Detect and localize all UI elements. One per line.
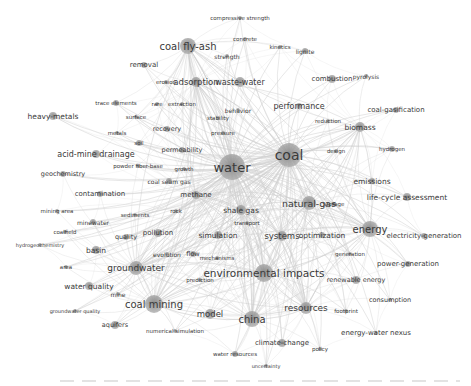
node-label-storage: storage: [324, 201, 346, 208]
node-label-lignite: lignite: [296, 48, 315, 56]
network-edge: [359, 76, 366, 127]
node-label-powder-fiber-base: powder fiber-base: [113, 163, 163, 170]
node-label-shale-gas: shale gas: [223, 206, 259, 215]
node-label-rock: rock: [170, 208, 183, 214]
node-label-systems: systems: [264, 231, 300, 241]
node-label-coalfield: coalfield: [53, 229, 76, 235]
node-label-recovery: recovery: [153, 125, 182, 133]
node-label-coal-gasification: coal-gasification: [367, 106, 424, 114]
node-label-prediction: prediction: [186, 277, 214, 284]
network-edge: [266, 308, 306, 366]
node-label-mechanisms: mechanisms: [200, 255, 235, 261]
node-label-energy: energy: [353, 224, 388, 235]
node-label-combustion: combustion: [312, 75, 353, 83]
node-label-contamination: contamination: [75, 190, 126, 198]
node-label-mining-area: mining area: [41, 208, 74, 215]
network-edge: [327, 79, 332, 121]
node-label-footprint: footprint: [334, 308, 359, 315]
node-label-aquifers: aquifers: [102, 321, 129, 329]
node-label-rare-earth: rare: [151, 101, 163, 107]
node-label-evolution: evolution: [153, 251, 181, 258]
network-edge: [359, 76, 366, 127]
node-label-model: model: [197, 309, 223, 319]
node-label-hydrogeochemistry: hydrogeochemistry: [16, 242, 64, 249]
network-edge: [136, 82, 196, 117]
node-label-growth: growth: [174, 166, 194, 173]
node-label-water: water: [213, 160, 251, 175]
node-label-electricity-generation: electricity-generation: [386, 232, 461, 240]
node-label-biomass: biomass: [344, 123, 375, 132]
node-label-heavy-metals: heavy-metals: [28, 112, 79, 121]
node-label-extraction: extraction: [168, 101, 196, 107]
network-edge: [116, 103, 118, 133]
node-label-design: design: [327, 148, 346, 155]
network-edge: [289, 79, 332, 155]
node-label-pressure: pressure: [211, 130, 235, 137]
node-label-coal-mining: coal mining: [125, 299, 183, 310]
node-label-water-resources: water resources: [213, 351, 257, 357]
node-label-transport: transport: [234, 220, 260, 227]
node-label-waste-water: waste-water: [215, 78, 265, 87]
node-label-policy: policy: [312, 346, 329, 353]
node-label-erosion: erosion: [156, 79, 177, 85]
node-label-climate-change: climate-change: [255, 339, 309, 347]
node-label-sediments: sediments: [121, 212, 150, 218]
node-label-environmental-impacts: environmental impacts: [203, 267, 324, 279]
node-label-simulation: simulation: [198, 231, 237, 240]
node-label-surface: surface: [126, 114, 147, 120]
node-label-hydrogen: hydrogen: [379, 146, 406, 153]
node-label-resources: resources: [284, 303, 328, 313]
node-label-permeability: permeability: [162, 146, 203, 154]
node-label-coal-fly-ash: coal fly-ash: [159, 41, 216, 52]
node-label-geochemistry: geochemistry: [41, 170, 86, 178]
node-label-compressive-strength: compressive strength: [210, 15, 270, 22]
network-edge: [305, 51, 360, 127]
node-label-mine: mine: [110, 291, 125, 298]
node-label-concrete: concrete: [233, 36, 258, 42]
network-edge: [360, 127, 407, 197]
caption-strip: [60, 380, 460, 382]
node-label-kinetics: kinetics: [269, 44, 290, 50]
node-label-numerical-simulation: numerical simulation: [146, 328, 204, 334]
node-label-emissions: emissions: [353, 177, 390, 186]
node-label-pyrolysis: pyrolysis: [353, 73, 380, 81]
node-label-mobility: metals: [108, 130, 127, 136]
node-label-mine-water: minewater: [77, 219, 110, 226]
node-label-behavior: behavior: [225, 107, 252, 114]
node-label-strength: strength: [214, 53, 239, 61]
network-edge: [57, 174, 63, 211]
keyword-network-diagram: watercoalenvironmental impactscoal minin…: [0, 0, 471, 386]
node-label-optimization: optimization: [299, 231, 346, 240]
node-label-methane: methane: [180, 191, 211, 199]
node-label-coal: coal: [275, 147, 304, 163]
node-label-flow: flow: [186, 250, 200, 258]
node-label-power-generation: power-generation: [377, 260, 439, 268]
node-label-groundwater: groundwater: [107, 263, 165, 273]
node-label-groundwater-quality: groundwater quality: [50, 308, 101, 315]
node-label-china: china: [238, 314, 265, 325]
node-label-performance: performance: [273, 102, 324, 111]
node-label-removal: removal: [130, 61, 159, 69]
node-label-soil: soil: [134, 140, 144, 146]
node-label-uncertainty: uncertainty: [252, 363, 281, 370]
network-edge: [390, 264, 408, 300]
node-label-trace-elements: trace elements: [95, 100, 137, 106]
node-label-coal-seam-gas: coal seam gas: [147, 178, 190, 186]
node-label-renewable-energy: renewable energy: [327, 276, 386, 284]
node-label-pollution: pollution: [143, 229, 173, 237]
node-label-reduction: reduction: [315, 118, 342, 124]
node-label-life-cycle-assessment: life-cycle assessment: [367, 193, 447, 202]
node-label-generation: generation: [335, 251, 365, 258]
node-label-quality: quality: [115, 233, 137, 241]
node-label-water-quality: water quality: [64, 282, 114, 291]
node-label-stability: stability: [207, 115, 230, 122]
node-label-acid-mine-drainage: acid-mine drainage: [57, 150, 135, 159]
node-label-consumption: consumption: [369, 296, 411, 304]
node-label-energy-water-nexus: energy-water nexus: [341, 329, 411, 337]
node-label-adsorption: adsorption: [173, 77, 218, 87]
node-label-area: area: [60, 264, 72, 270]
node-label-basin: basin: [86, 246, 106, 255]
